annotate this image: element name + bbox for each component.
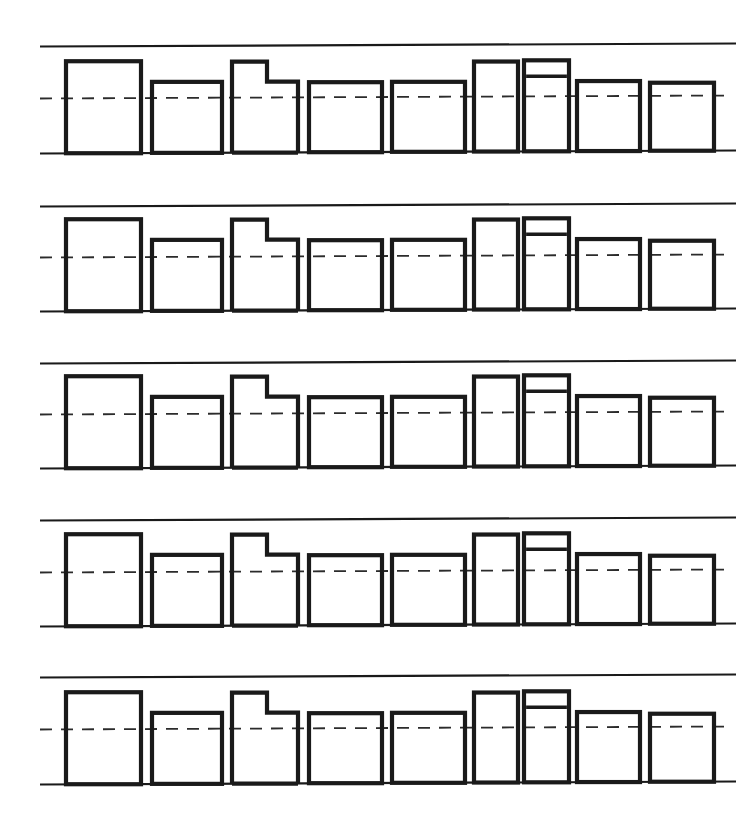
canvas-background [0,0,741,834]
figure-canvas [0,0,741,834]
